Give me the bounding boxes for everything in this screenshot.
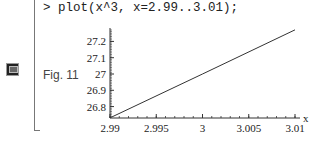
y-tick-label: 26.9	[87, 84, 107, 96]
x-axis-label: x	[303, 112, 309, 124]
y-tick-label: 27.2	[87, 35, 106, 47]
x-tick-label: 3.01	[285, 122, 304, 134]
x-tick-label: 2.99	[100, 122, 120, 134]
x-tick-label: 3.005	[236, 122, 261, 134]
y-tick-label: 27	[95, 68, 107, 80]
x-tick-label: 3	[200, 122, 206, 134]
plot[interactable]: 2.992.99533.0053.0126.826.92727.127.2x	[0, 0, 312, 144]
series-line	[110, 30, 295, 118]
x-tick-label: 2.995	[144, 122, 169, 134]
y-tick-label: 26.8	[87, 101, 107, 113]
y-tick-label: 27.1	[87, 52, 106, 64]
